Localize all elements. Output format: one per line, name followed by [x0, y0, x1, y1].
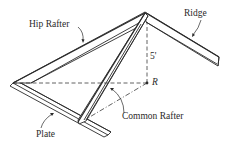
- roof-framing-diagram: Hip Rafter Ridge 5' R Common Rafter Plat…: [0, 0, 233, 151]
- hip-rafter-leader: [78, 27, 83, 41]
- construction-lines: [13, 22, 147, 118]
- common-rafter-leader: [112, 89, 124, 113]
- plate-leader: [41, 114, 52, 128]
- point-r-dot: [146, 82, 149, 85]
- label-height-5ft: 5': [150, 52, 156, 62]
- label-common-rafter: Common Rafter: [122, 112, 183, 122]
- label-hip-rafter: Hip Rafter: [29, 20, 69, 30]
- label-point-r: R: [152, 78, 158, 88]
- plate-arrowhead-icon: [50, 113, 54, 116]
- ridge-leader: [193, 20, 201, 35]
- label-ridge: Ridge: [184, 9, 207, 19]
- label-plate: Plate: [36, 130, 55, 140]
- hip-rafter-arrowhead-icon: [82, 39, 85, 43]
